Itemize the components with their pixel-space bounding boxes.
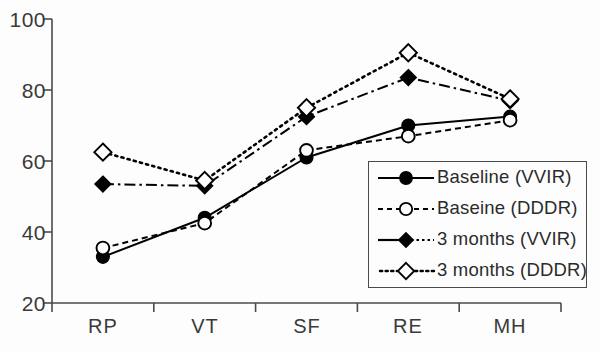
legend-label-3months-vvir: 3 months (VVIR) [437, 230, 577, 249]
open-diamond-dotted-line-icon [375, 259, 437, 283]
xtick-label-sf: SF [272, 316, 342, 336]
legend-label-baseine-dddr: Baseine (DDDR) [437, 199, 578, 218]
ytick-label-100: 100 [0, 9, 46, 30]
filled-circle-solid-line-icon [375, 166, 437, 190]
legend-item-3months-dddr: 3 months (DDDR) [369, 255, 586, 286]
legend-item-baseline-vvir: Baseline (VVIR) [369, 162, 586, 193]
xtick-label-vt: VT [170, 316, 240, 336]
xtick-label-rp: RP [68, 316, 138, 336]
filled-diamond-dashdot-line-icon [375, 228, 437, 252]
ytick-label-60: 60 [0, 151, 46, 172]
ytick-label-20: 20 [0, 293, 46, 314]
open-circle-dashed-line-icon [375, 197, 437, 221]
ytick-label-80: 80 [0, 80, 46, 101]
xtick-label-re: RE [373, 316, 443, 336]
legend: Baseline (VVIR) Baseine (DDDR) 3 months … [368, 161, 587, 288]
xtick-label-mh: MH [475, 316, 545, 336]
ytick-label-40: 40 [0, 222, 46, 243]
line-chart: 100 80 60 40 20 RP VT SF RE MH Baseline … [0, 0, 600, 352]
legend-item-baseine-dddr: Baseine (DDDR) [369, 193, 586, 224]
legend-label-baseline-vvir: Baseline (VVIR) [437, 168, 572, 187]
legend-item-3months-vvir: 3 months (VVIR) [369, 224, 586, 255]
legend-label-3months-dddr: 3 months (DDDR) [437, 261, 587, 280]
